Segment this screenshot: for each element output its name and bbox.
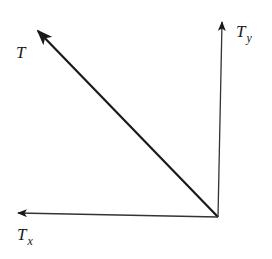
vector-ty-arrow [218,22,222,217]
label-ty-main: T [236,22,245,41]
label-ty: Ty [236,23,251,40]
vector-tx-arrow [18,213,218,217]
vector-diagram: T Ty Tx [0,0,272,259]
vector-diagram-svg [0,0,272,259]
label-tx-main: T [17,225,26,244]
label-t-main: T [16,43,25,62]
label-tx: Tx [17,226,32,243]
label-tx-sub: x [27,234,32,248]
label-t: T [16,44,25,61]
vector-t-arrow [38,31,218,217]
label-ty-sub: y [246,31,251,45]
